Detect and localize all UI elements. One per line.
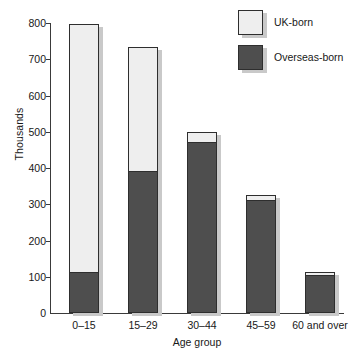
legend-swatch <box>238 10 263 35</box>
bar-group[interactable] <box>187 132 217 313</box>
bar-group[interactable] <box>305 272 335 313</box>
bar-segment-overseas-born[interactable] <box>129 171 157 312</box>
y-tick-label: 300 <box>2 198 46 210</box>
bar-segment-overseas-born[interactable] <box>70 272 98 312</box>
y-tick-label: 100 <box>2 271 46 283</box>
bar-segment-uk-born[interactable] <box>246 195 276 313</box>
bar-group[interactable] <box>128 47 158 313</box>
y-tick-label: 400 <box>2 162 46 174</box>
bar-segment-overseas-born[interactable] <box>306 275 334 312</box>
bar-segment-uk-born[interactable] <box>187 132 217 313</box>
bar-series-container <box>50 20 344 313</box>
x-tick-label: 60 and over <box>281 319 359 331</box>
bar-segment-uk-born[interactable] <box>305 272 335 313</box>
legend-label: Overseas-born <box>274 51 343 63</box>
bar-segment-overseas-born[interactable] <box>247 200 275 312</box>
bar-segment-overseas-born[interactable] <box>188 142 216 312</box>
legend-label: UK-born <box>274 16 313 28</box>
bar-segment-uk-born[interactable] <box>128 47 158 313</box>
bar-segment-uk-born[interactable] <box>69 24 99 313</box>
y-tick-label: 600 <box>2 90 46 102</box>
x-axis-title: Age group <box>50 336 344 348</box>
stacked-bar-chart: Thousands 0100200300400500600700800 0–15… <box>0 0 359 355</box>
y-tick-label: 200 <box>2 235 46 247</box>
y-tick-label: 500 <box>2 126 46 138</box>
y-tick-label: 800 <box>2 17 46 29</box>
y-tick-label: 0 <box>2 307 46 319</box>
y-tick-label: 700 <box>2 53 46 65</box>
plot-area: 0100200300400500600700800 0–1515–2930–44… <box>50 20 344 313</box>
bar-group[interactable] <box>69 24 99 313</box>
bar-group[interactable] <box>246 195 276 313</box>
legend-swatch <box>238 45 263 70</box>
